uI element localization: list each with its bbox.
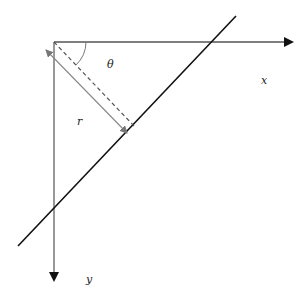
distance-arrow bbox=[46, 50, 127, 133]
straight-line bbox=[18, 16, 236, 246]
angle-arc bbox=[76, 42, 86, 65]
diagram-canvas: θ r x y bbox=[0, 0, 308, 296]
angle-label: θ bbox=[107, 58, 114, 71]
perpendicular-dashed bbox=[54, 42, 134, 126]
y-axis-label: y bbox=[85, 273, 93, 286]
distance-label: r bbox=[77, 115, 83, 128]
x-axis-label: x bbox=[261, 74, 268, 87]
